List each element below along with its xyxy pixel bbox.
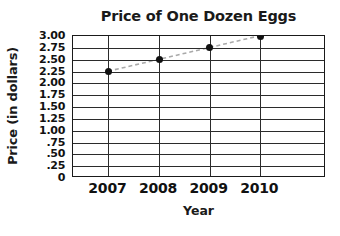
y-axis-label: Price (in dollars) (5, 47, 20, 165)
chart-title: Price of One Dozen Eggs (72, 8, 325, 24)
vertical-gridline (108, 36, 109, 176)
x-axis-tick-label: 2008 (139, 180, 177, 196)
x-axis-tick-label: 2007 (88, 180, 126, 196)
y-axis-label-container: Price (in dollars) (2, 35, 22, 177)
horizontal-gridline (73, 60, 324, 61)
horizontal-gridline (73, 95, 324, 96)
data-point-marker (156, 56, 163, 63)
x-axis-label: Year (72, 203, 325, 218)
y-axis-tick-labels: 3.002.752.502.252.001.751.501.251.00.75.… (22, 35, 69, 177)
vertical-gridline (210, 36, 211, 176)
horizontal-gridline (73, 83, 324, 84)
plot-area (72, 35, 325, 177)
horizontal-gridline (73, 166, 324, 167)
series-dashed-line (108, 36, 259, 71)
horizontal-gridline (73, 48, 324, 49)
x-axis-tick-label: 2010 (240, 180, 278, 196)
vertical-gridline (260, 36, 261, 176)
horizontal-gridline (73, 154, 324, 155)
plot-grid-layer (73, 36, 324, 176)
x-axis-tick-labels: 2007200820092010 (72, 180, 325, 200)
horizontal-gridline (73, 119, 324, 120)
y-axis-tick-label: 0 (58, 171, 65, 184)
data-point-marker (257, 36, 264, 40)
horizontal-gridline (73, 131, 324, 132)
data-point-marker (105, 68, 112, 75)
chart-figure: Price of One Dozen Eggs Price (in dollar… (0, 0, 340, 236)
horizontal-gridline (73, 107, 324, 108)
x-axis-tick-label: 2009 (190, 180, 228, 196)
horizontal-gridline (73, 143, 324, 144)
